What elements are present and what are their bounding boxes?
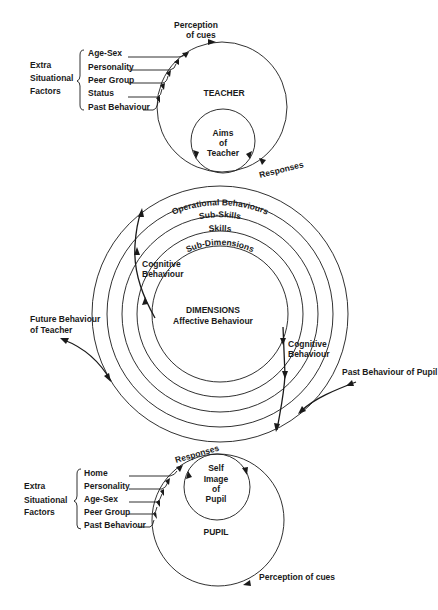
teacher-factors-brace	[77, 50, 84, 110]
aims-label-1: Aims	[213, 128, 234, 138]
teacher-responses-label: Responses	[258, 159, 305, 180]
aims-label-2: of	[219, 138, 227, 148]
factor-arrow-line	[128, 55, 185, 57]
teacher-factor-personality: Personality	[88, 62, 134, 72]
self-image-label-4: Pupil	[206, 494, 227, 504]
teacher-extra-label-3: Factors	[30, 86, 61, 96]
teacher-perception-label-1: Perception	[174, 20, 218, 30]
arrowhead-icon	[246, 151, 252, 159]
arrowhead-icon	[242, 467, 248, 475]
past-behaviour-pupil-label: Past Behaviour of Pupil	[342, 367, 437, 377]
teacher-section: TEACHER Aims of Teacher Perception of cu…	[30, 20, 305, 180]
dimensions-subtitle: Affective Behaviour	[173, 316, 254, 326]
arrowhead-icon	[282, 371, 288, 379]
pupil-perception-label: Perception of cues	[259, 572, 335, 582]
arrowhead-icon	[346, 380, 354, 386]
arrowhead-icon	[104, 373, 111, 382]
arrowhead-icon	[259, 158, 266, 165]
pupil-extra-label-1: Extra	[24, 481, 46, 491]
arrowhead-icon	[138, 208, 144, 217]
interaction-rings: Operational Behaviours Sub-Skills Skills…	[30, 186, 437, 442]
teacher-factor-past-behaviour: Past Behaviour	[88, 102, 151, 112]
future-behaviour-arrow	[64, 340, 111, 381]
pupil-responses-label: Responses	[174, 443, 221, 465]
self-image-label-1: Self	[208, 463, 224, 473]
arrowhead-icon	[186, 471, 192, 479]
ring-label-skills: Skills	[208, 223, 232, 234]
future-behaviour-label-1: Future Behaviour	[30, 314, 101, 324]
pupil-factor-past-behaviour: Past Behaviour	[84, 520, 147, 530]
right-cognitive-label-1: Cognitive	[288, 339, 327, 349]
pupil-extra-label-2: Situational	[24, 495, 67, 505]
arrowhead-icon	[174, 59, 179, 65]
pupil-section: PUPIL Self Image of Pupil Responses Perc…	[24, 443, 335, 586]
teacher-extra-label-1: Extra	[30, 60, 52, 70]
teacher-factor-age-sex: Age-Sex	[88, 48, 122, 58]
future-behaviour-label-2: of Teacher	[30, 325, 73, 335]
arrowhead-icon	[153, 512, 157, 519]
pupil-factors-brace	[74, 469, 81, 529]
right-cognitive-label-2: Behaviour	[288, 349, 330, 359]
aims-label-3: Teacher	[207, 148, 240, 158]
arrowhead-icon	[166, 70, 171, 77]
left-cognitive-label-1: Cognitive	[142, 259, 181, 269]
self-image-label-2: Image	[204, 474, 229, 484]
dimensions-title: DIMENSIONS	[186, 305, 240, 315]
self-image-label-3: of	[212, 484, 220, 494]
past-behaviour-pupil-arrow	[301, 382, 356, 411]
pupil-factor-age-sex: Age-Sex	[84, 494, 118, 504]
teacher-factor-status: Status	[88, 88, 114, 98]
pupil-extra-label-3: Factors	[24, 507, 55, 517]
pupil-factor-personality: Personality	[84, 481, 130, 491]
pupil-factor-peer-group: Peer Group	[84, 507, 130, 517]
pupil-title: PUPIL	[203, 527, 228, 537]
left-cognitive-label-2: Behaviour	[142, 269, 184, 279]
ring-label-sub-dimensions: Sub-Dimensions	[184, 237, 256, 254]
teacher-pupil-interaction-diagram: TEACHER Aims of Teacher Perception of cu…	[0, 0, 438, 610]
arrowhead-icon	[156, 500, 160, 507]
teacher-extra-label-2: Situational	[30, 73, 73, 83]
ring-label-sub-skills: Sub-Skills	[198, 209, 242, 221]
teacher-perception-label-2: of cues	[186, 30, 216, 40]
teacher-factor-peer-group: Peer Group	[88, 75, 134, 85]
teacher-title: TEACHER	[203, 88, 244, 98]
factor-arrow-line	[128, 89, 162, 97]
pupil-factor-home: Home	[84, 468, 108, 478]
